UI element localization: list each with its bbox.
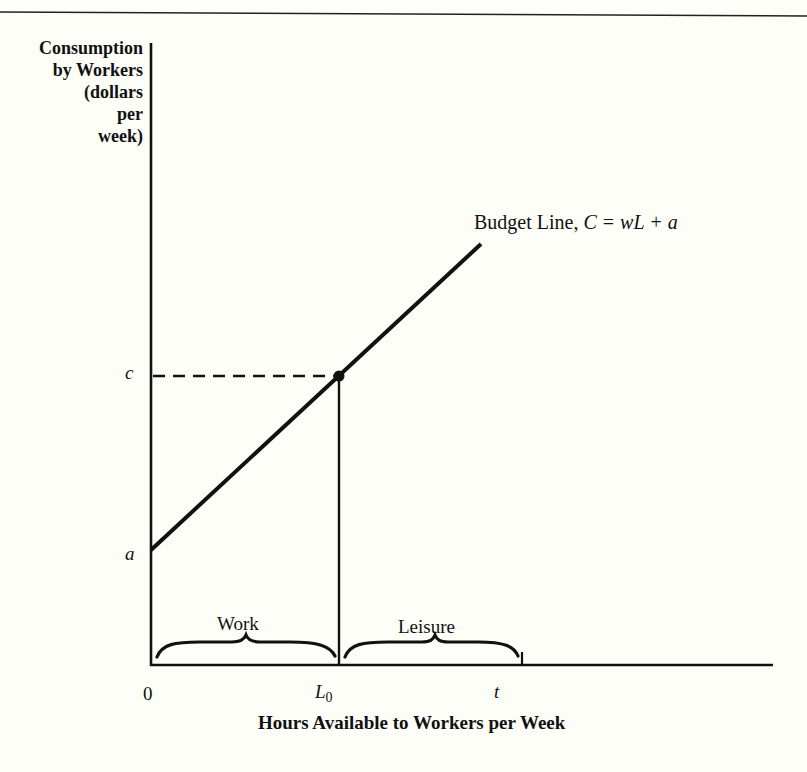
y-axis-label-line: (dollars — [39, 81, 143, 103]
x-axis-label: Hours Available to Workers per Week — [258, 712, 565, 734]
equilibrium-point — [334, 371, 345, 382]
work-brace — [157, 635, 335, 657]
budget-line-label: Budget Line, C=wL+a — [474, 211, 678, 234]
x-tick-origin: 0 — [143, 683, 153, 705]
budget-label-lhs: C — [583, 211, 596, 233]
y-axis-label-line: per — [39, 103, 143, 125]
leisure-label: Leisure — [398, 616, 455, 638]
x-tick-l0-base: L — [315, 681, 326, 702]
y-axis-label-line: Consumption — [39, 37, 143, 59]
budget-label-prefix: Budget Line, — [474, 211, 578, 233]
y-tick-a: a — [125, 543, 135, 565]
y-axis-label-line: week) — [39, 125, 143, 147]
budget-label-term1: wL — [620, 211, 644, 233]
work-label: Work — [217, 613, 259, 635]
budget-label-term2: a — [668, 211, 678, 233]
budget-label-plus: + — [645, 211, 668, 233]
x-tick-l0-subscript: 0 — [326, 690, 333, 705]
leisure-brace — [345, 635, 518, 657]
y-axis-label-line: by Workers — [39, 59, 143, 81]
y-tick-c: c — [125, 362, 133, 384]
x-tick-l0: L0 — [315, 681, 333, 706]
budget-label-eq: = — [597, 211, 620, 233]
top-rule — [0, 12, 807, 16]
budget-line — [151, 244, 481, 550]
x-tick-t: t — [494, 681, 499, 703]
y-axis-label: Consumption by Workers (dollars per week… — [39, 37, 143, 147]
